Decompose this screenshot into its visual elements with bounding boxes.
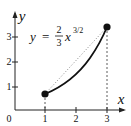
origin-label: 0	[7, 113, 12, 124]
equation-exponent: 3/2	[73, 26, 83, 35]
equation-label: y = 2 3 x 3/2	[28, 24, 83, 48]
curve-diagram: 0 1 2 3 1 2 3 x y y = 2 3 x 3/2	[0, 0, 131, 126]
equation-numerator: 2	[57, 24, 62, 35]
x-tick-label-2: 2	[74, 113, 79, 124]
y-tick-label-1: 1	[7, 81, 12, 92]
equation-denominator: 3	[57, 37, 62, 48]
endpoint-end	[103, 23, 110, 30]
equation-variable: x	[64, 29, 71, 44]
chord-line	[45, 27, 107, 94]
equation-equals: =	[42, 29, 49, 44]
y-axis-arrow-icon	[13, 11, 18, 18]
x-axis-label: x	[117, 91, 125, 107]
x-axis-arrow-icon	[119, 108, 126, 113]
x-tick-label-1: 1	[43, 113, 48, 124]
y-axis-label: y	[17, 8, 26, 24]
endpoint-start	[41, 90, 48, 97]
y-tick-label-2: 2	[7, 56, 12, 67]
x-tick-label-3: 3	[105, 113, 110, 124]
equation-lhs: y	[28, 29, 36, 44]
y-tick-label-3: 3	[7, 31, 12, 42]
